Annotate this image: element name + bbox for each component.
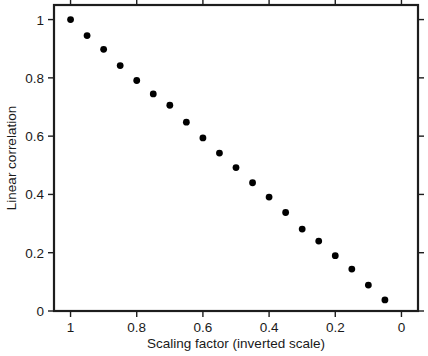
data-point (84, 32, 91, 39)
x-tick-label-4: 0.2 (326, 320, 345, 335)
x-axis-title: Scaling factor (inverted scale) (147, 336, 325, 351)
x-axis-tick-labels: 10.80.60.40.20 (67, 320, 405, 335)
data-point (183, 119, 190, 126)
y-tick-label-3: 0.6 (25, 129, 44, 144)
chart-figure: 10.80.60.40.20 00.20.40.60.81 Scaling fa… (0, 0, 428, 356)
data-point (67, 16, 74, 23)
data-point (382, 297, 389, 304)
data-point (200, 134, 207, 141)
data-point (117, 62, 124, 69)
data-point (266, 194, 273, 201)
data-point (315, 238, 322, 245)
y-tick-label-2: 0.4 (25, 187, 44, 202)
y-axis-tick-labels: 00.20.40.60.81 (25, 13, 44, 319)
scatter-plot-svg: 10.80.60.40.20 00.20.40.60.81 Scaling fa… (0, 0, 428, 356)
data-point (332, 252, 339, 259)
data-point (133, 77, 140, 84)
x-tick-label-1: 0.8 (127, 320, 146, 335)
x-tick-label-3: 0.4 (260, 320, 279, 335)
x-tick-label-0: 1 (67, 320, 75, 335)
y-axis-title: Linear correlation (4, 106, 19, 210)
data-point (166, 102, 173, 109)
data-point (150, 90, 157, 97)
y-tick-label-0: 0 (36, 304, 44, 319)
x-tick-label-2: 0.6 (194, 320, 213, 335)
y-tick-label-4: 0.8 (25, 71, 44, 86)
data-point (365, 282, 372, 289)
data-point (282, 209, 289, 216)
y-tick-label-1: 0.2 (25, 246, 44, 261)
plot-frame (54, 5, 418, 311)
x-tick-label-5: 0 (398, 320, 406, 335)
data-point (249, 179, 256, 186)
data-point-group (67, 16, 388, 303)
data-point (100, 46, 107, 53)
data-point (299, 226, 306, 233)
y-tick-label-5: 1 (36, 13, 44, 28)
data-point (216, 150, 223, 157)
data-point (233, 164, 240, 171)
data-point (348, 266, 355, 273)
